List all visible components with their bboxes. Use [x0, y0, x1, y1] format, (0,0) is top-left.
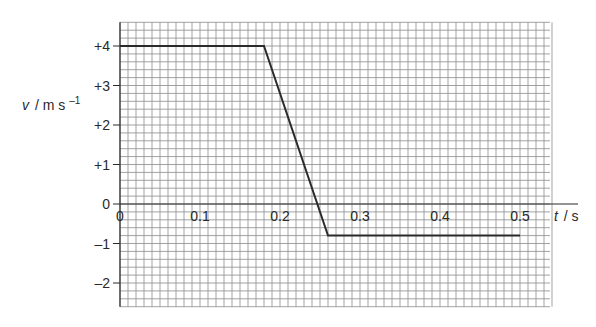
x-tick-label: 0.1 — [190, 208, 210, 224]
y-axis-label: v / m s –1 — [22, 95, 81, 113]
graph-paper-grid — [120, 22, 552, 306]
velocity-time-graph: +4+3+2+10–1–2 00.10.20.30.40.5 v / m s –… — [0, 0, 596, 327]
y-tick-label: +3 — [94, 78, 110, 94]
x-tick-label: 0.3 — [350, 208, 370, 224]
x-axis-symbol: t — [554, 208, 559, 224]
y-tick-label: –2 — [94, 275, 110, 291]
y-tick-label: +1 — [94, 157, 110, 173]
x-axis-unit: / s — [564, 208, 579, 224]
y-axis-unit: / m s — [35, 97, 65, 113]
y-tick-label: –1 — [94, 236, 110, 252]
y-tick-label: 0 — [102, 196, 110, 212]
x-tick-label: 0.4 — [430, 208, 450, 224]
x-tick-label: 0.5 — [510, 208, 530, 224]
x-axis-label: t / s — [554, 208, 579, 224]
y-tick-label: +2 — [94, 117, 110, 133]
y-axis-ticks: +4+3+2+10–1–2 — [94, 38, 120, 291]
y-axis-unit-exponent: –1 — [69, 95, 81, 106]
x-tick-label: 0 — [116, 208, 124, 224]
y-axis-symbol: v — [22, 97, 30, 113]
y-tick-label: +4 — [94, 38, 110, 54]
x-tick-label: 0.2 — [270, 208, 290, 224]
